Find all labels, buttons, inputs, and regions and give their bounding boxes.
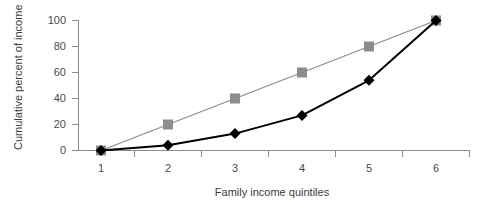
y-tick-label: 60 (54, 66, 66, 78)
x-axis-ticks (135, 150, 470, 157)
x-tick-label: 3 (232, 162, 238, 174)
x-tick-label: 1 (98, 162, 104, 174)
x-tick-label: 2 (165, 162, 171, 174)
data-point-marker (163, 140, 174, 151)
data-point-marker (163, 120, 173, 130)
x-axis-title: Family income quintiles (215, 186, 330, 198)
x-tick-label: 6 (433, 162, 439, 174)
y-tick-label: 100 (48, 14, 66, 26)
lorenz-curve-chart: Cumulative percent of income 100 80 60 4… (0, 0, 496, 210)
series-line-line-of-equality (101, 21, 436, 151)
y-axis-title: Cumulative percent of income (12, 4, 24, 150)
y-axis-ticks (72, 21, 78, 151)
y-tick-label: 40 (54, 92, 66, 104)
y-tick-label: 0 (60, 144, 66, 156)
data-point-marker (297, 68, 307, 78)
x-tick-label: 5 (366, 162, 372, 174)
chart-canvas: Cumulative percent of income 100 80 60 4… (0, 0, 496, 210)
data-point-marker (364, 42, 374, 52)
y-axis-tick-labels: 100 80 60 40 20 0 (48, 14, 66, 156)
data-point-marker (230, 94, 240, 104)
data-point-marker (230, 128, 241, 139)
y-tick-label: 80 (54, 40, 66, 52)
x-axis-tick-labels: 1 2 3 4 5 6 (98, 162, 439, 174)
data-series-layer (96, 15, 442, 156)
x-tick-label: 4 (299, 162, 305, 174)
data-point-marker (297, 110, 308, 121)
y-tick-label: 20 (54, 118, 66, 130)
